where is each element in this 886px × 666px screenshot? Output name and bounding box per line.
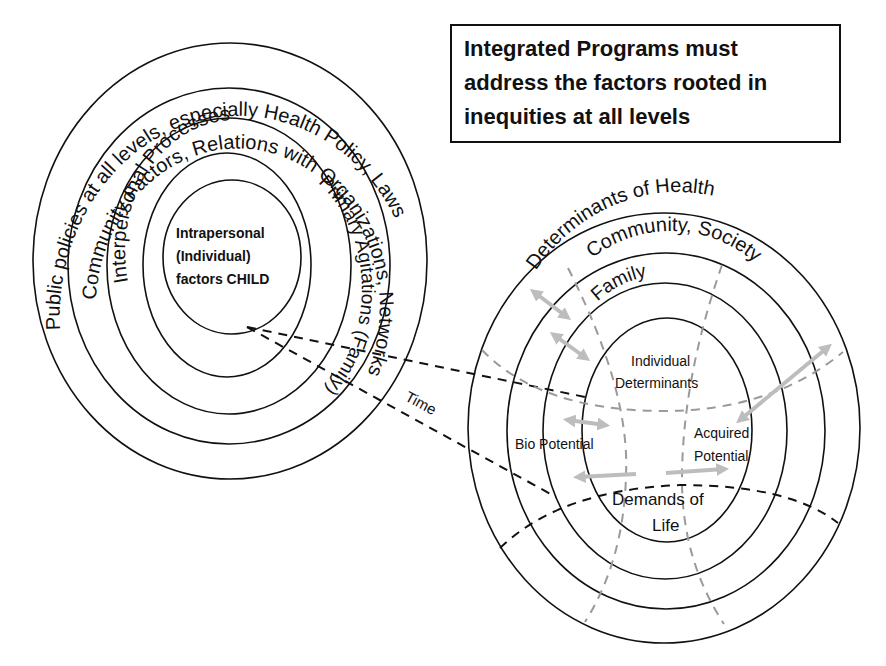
gray-meridian-right bbox=[682, 265, 724, 624]
demands-of-life-line-1: Demands of bbox=[612, 490, 704, 509]
left-center-line-1: Intrapersonal bbox=[176, 225, 265, 241]
double-arrow-acquired bbox=[740, 347, 828, 420]
right-ring-label-family: Family bbox=[587, 260, 649, 305]
integrated-programs-callout: Integrated Programs must address the fac… bbox=[450, 24, 841, 143]
right-center-line-2: Determinants bbox=[615, 375, 698, 391]
acquired-potential-line-1: Acquired bbox=[694, 425, 749, 441]
callout-line-1: Integrated Programs must bbox=[464, 32, 839, 66]
time-line-lower bbox=[247, 327, 556, 497]
arrow-right-bottom bbox=[666, 469, 724, 473]
right-determinants-diagram: Determinants of Health Community, Societ… bbox=[468, 174, 860, 643]
acquired-potential-line-2: Potential bbox=[694, 448, 748, 464]
callout-line-3: inequities at all levels bbox=[464, 100, 839, 134]
left-ecological-diagram: Public policies at all levels, especiall… bbox=[33, 43, 427, 479]
left-center-line-2: (Individual) bbox=[176, 248, 251, 264]
double-arrow-bio bbox=[568, 420, 605, 425]
left-center-line-3: factors CHILD bbox=[176, 271, 269, 287]
demands-of-life-line-2: Life bbox=[652, 516, 679, 535]
left-ring-primary bbox=[143, 153, 311, 377]
diagram-canvas: Public policies at all levels, especiall… bbox=[0, 0, 886, 666]
callout-line-2: address the factors rooted in bbox=[464, 66, 839, 100]
time-connector: Time bbox=[247, 327, 590, 497]
right-center-line-1: Individual bbox=[631, 353, 690, 369]
arrow-left-bottom bbox=[578, 474, 636, 477]
time-label: Time bbox=[403, 388, 440, 418]
bio-potential-label: Bio Potential bbox=[515, 436, 594, 452]
